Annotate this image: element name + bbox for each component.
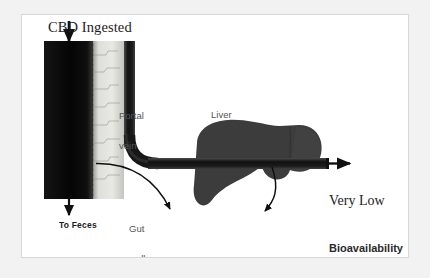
portal-vein-label-line1: Portal <box>119 111 144 121</box>
figure-root: CBD Ingested Portal vein Liver Very Low … <box>0 0 430 278</box>
gut-wall-label: Gut wall <box>129 203 145 258</box>
bioavailability-label-line1: Very Low <box>329 193 403 208</box>
cbd-ingested-label: CBD Ingested <box>48 20 132 36</box>
diagram-panel: CBD Ingested Portal vein Liver Very Low … <box>21 14 409 258</box>
bioavailability-label: Very Low Bioavailability <box>329 158 403 258</box>
gut-wall-label-line2: wall <box>129 254 145 258</box>
portal-vein-label: Portal vein <box>119 90 144 172</box>
gut-wall-label-line1: Gut <box>129 224 145 234</box>
gut-lumen <box>44 41 93 199</box>
gut-wall-metabolism-label: Gut wall metabolism <box>150 251 250 258</box>
to-feces-label: To Feces <box>59 221 97 230</box>
liver-metabolism-label: Liver metabolism <box>255 251 355 258</box>
systemic-circulation-tube <box>148 158 329 169</box>
liver-label: Liver <box>211 110 232 120</box>
portal-vein-label-line2: vein <box>119 141 144 151</box>
